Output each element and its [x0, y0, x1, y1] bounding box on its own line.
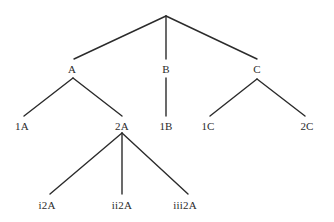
tree-edges-layer: [0, 0, 334, 222]
tree-edge-C-to-2C: [257, 79, 305, 116]
tree-edge-root-to-A: [74, 16, 166, 59]
tree-edge-2A-to-i2A: [50, 133, 122, 194]
tree-node-label-2A: 2A: [115, 121, 129, 132]
tree-node-label-1C: 1C: [201, 121, 214, 132]
tree-node-label-1A: 1A: [15, 121, 29, 132]
tree-node-label-i2A: i2A: [38, 200, 55, 211]
tree-diagram: ABC1A2A1B1C2Ci2Aii2Aiii2A: [0, 0, 334, 222]
tree-edge-root-to-C: [166, 16, 257, 59]
tree-node-label-iii2A: iii2A: [173, 200, 197, 211]
tree-edge-C-to-1C: [210, 79, 257, 116]
tree-node-label-1B: 1B: [159, 121, 172, 132]
tree-node-label-ii2A: ii2A: [112, 200, 132, 211]
tree-node-label-A: A: [68, 64, 76, 75]
tree-node-label-B: B: [162, 64, 170, 75]
tree-node-label-C: C: [253, 64, 261, 75]
tree-node-label-2C: 2C: [300, 121, 313, 132]
tree-edge-A-to-1A: [24, 78, 73, 116]
tree-edge-A-to-2A: [73, 78, 122, 116]
tree-edge-2A-to-iii2A: [122, 133, 188, 194]
